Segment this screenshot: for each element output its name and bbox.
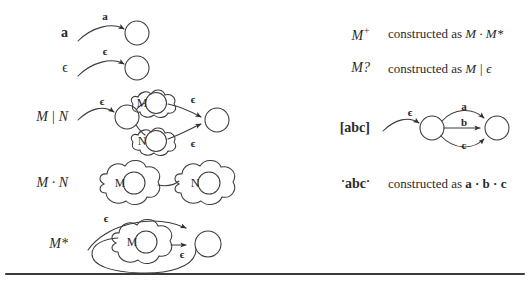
description-plus: constructed as M · M* xyxy=(388,27,503,40)
rule-label-optional: M? xyxy=(322,61,370,75)
edge-label-star-outer: ϵ xyxy=(96,213,116,224)
rule-label-string: ·abc· xyxy=(310,176,370,191)
rule-label-plus: M+ xyxy=(322,26,370,43)
description-optional-expr: M | ϵ xyxy=(465,61,491,76)
edge-label-charclass-in: ϵ xyxy=(400,107,420,118)
edge-label-a: a xyxy=(95,11,115,22)
figure-canvas xyxy=(0,0,530,285)
description-plus-expr: M · M* xyxy=(465,26,503,41)
blob-label-alternation-n: N xyxy=(134,135,150,147)
edge-label-star-inner: ϵ xyxy=(172,249,192,260)
diagram-single-epsilon xyxy=(78,56,149,80)
rule-label-plus-base: M xyxy=(352,28,364,43)
description-string-expr: a · b · c xyxy=(465,176,506,191)
blob-label-star-m: M xyxy=(124,236,140,248)
blob-label-concat-m: M xyxy=(112,177,128,189)
edge-label-charclass-a: a xyxy=(456,101,472,112)
rule-label-charclass: [abc] xyxy=(314,121,370,135)
rule-label-star: M* xyxy=(4,237,68,251)
rule-label-concatenation: M · N xyxy=(4,176,68,190)
edge-label-alternation-upper: ϵ xyxy=(183,94,203,105)
figure-root: a ϵ M | N M · N M* a ϵ ϵ ϵ ϵ ϵ ϵ M N M N… xyxy=(0,0,530,285)
diagram-single-a xyxy=(78,21,149,45)
blob-label-alternation-m: M xyxy=(134,97,150,109)
description-optional: constructed as M | ϵ xyxy=(388,62,491,75)
description-optional-prefix: constructed as xyxy=(388,61,462,76)
rule-label-epsilon: ϵ xyxy=(14,61,68,75)
description-string: constructed as a · b · c xyxy=(388,177,506,190)
edge-label-epsilon-single: ϵ xyxy=(95,46,115,57)
edge-label-charclass-b: b xyxy=(456,117,472,128)
string-literal: abc xyxy=(345,176,366,191)
diagram-kleene-star xyxy=(88,219,221,273)
description-string-prefix: constructed as xyxy=(388,176,462,191)
description-plus-prefix: constructed as xyxy=(388,26,462,41)
string-close-quote: · xyxy=(366,174,370,188)
edge-label-alternation-lower: ϵ xyxy=(183,138,203,149)
blob-label-concat-n: N xyxy=(187,177,203,189)
rule-label-a: a xyxy=(14,26,68,40)
edge-label-charclass-c: c xyxy=(456,140,472,151)
rule-label-alternation: M | N xyxy=(4,110,68,124)
edge-label-alternation-in: ϵ xyxy=(92,96,112,107)
rule-label-plus-superscript: + xyxy=(363,25,370,36)
